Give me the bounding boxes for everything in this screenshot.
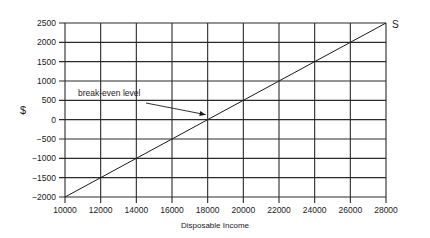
y-tick-label: 1000: [37, 76, 56, 86]
x-tick-label: 20000: [232, 205, 256, 215]
x-tick-label: 10000: [53, 205, 77, 215]
x-axis-ticks: 1000012000140001600018000200002200024000…: [53, 205, 398, 215]
arrowhead-icon: [199, 111, 205, 116]
y-axis-ticks: 25002000150010005000−500−1000−1500−2000: [32, 18, 56, 202]
y-tick-label: 2000: [37, 37, 56, 47]
y-tick-label: −2000: [32, 192, 56, 202]
x-tick-label: 26000: [339, 205, 363, 215]
x-tick-label: 12000: [89, 205, 113, 215]
savings-chart: 25002000150010005000−500−1000−1500−2000 …: [0, 0, 430, 238]
series-label-s: S: [392, 19, 399, 30]
y-tick-label: 1500: [37, 57, 56, 67]
break-even-annotation: break-even level: [78, 88, 206, 116]
x-tick-label: 24000: [303, 205, 327, 215]
y-tick-label: 2500: [37, 18, 56, 28]
x-tick-label: 18000: [196, 205, 220, 215]
annotation-text: break-even level: [78, 88, 140, 98]
y-tick-label: 0: [51, 115, 56, 125]
annotation-arrow-shaft: [146, 103, 206, 115]
y-tick-label: −1500: [32, 173, 56, 183]
y-tick-label: −500: [37, 134, 56, 144]
savings-line-path: [65, 23, 386, 197]
x-tick-label: 16000: [160, 205, 184, 215]
y-tick-label: 500: [42, 95, 56, 105]
x-tick-label: 22000: [267, 205, 291, 215]
x-tick-label: 28000: [374, 205, 398, 215]
x-axis-label: Disposable Income: [181, 221, 250, 230]
y-tick-label: −1000: [32, 153, 56, 163]
x-tick-label: 14000: [125, 205, 149, 215]
savings-line: [65, 23, 386, 197]
y-axis-label: $: [20, 104, 26, 116]
